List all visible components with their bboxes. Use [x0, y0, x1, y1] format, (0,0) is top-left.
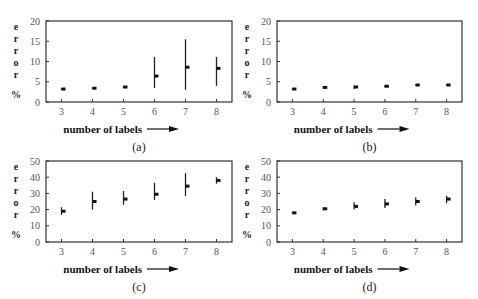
y-axis-label-letter: r: [245, 185, 250, 196]
errorbar-point: [447, 83, 451, 86]
mean-marker: [447, 83, 451, 86]
panel-caption: (a): [132, 140, 145, 154]
arrow-right-icon: [400, 126, 410, 132]
y-tick-label: 30: [30, 188, 40, 199]
mean-marker: [93, 87, 97, 90]
y-axis-label-letter: %: [242, 89, 252, 100]
x-tick-label: 5: [121, 106, 126, 117]
mean-marker: [416, 200, 420, 203]
y-tick-label: 0: [35, 97, 40, 108]
y-tick-label: 15: [261, 36, 271, 47]
mean-marker: [62, 210, 66, 213]
mean-marker: [385, 85, 389, 88]
errorbar-point: [323, 207, 327, 210]
plot-frame: [277, 21, 462, 102]
mean-marker: [124, 86, 128, 89]
y-tick-label: 20: [261, 16, 271, 27]
y-tick-label: 0: [266, 237, 271, 248]
x-axis-label: number of labels: [294, 263, 373, 275]
y-tick-label: 50: [261, 156, 271, 167]
y-axis-label-letter: r: [14, 209, 19, 220]
errorbar-point: [217, 177, 221, 183]
x-tick-label: 6: [382, 246, 387, 257]
chart-panel-a: 05101520345678error%number of labels(a): [11, 16, 232, 155]
x-tick-label: 8: [214, 246, 219, 257]
y-tick-label: 50: [30, 156, 40, 167]
y-tick-label: 10: [261, 220, 271, 231]
errorbar-point: [385, 199, 389, 208]
y-axis-label-letter: r: [14, 69, 19, 80]
mean-marker: [155, 193, 159, 196]
errorbar-point: [217, 57, 221, 86]
errorbar-point: [62, 88, 66, 91]
panel-caption: (d): [363, 280, 377, 294]
x-tick-label: 6: [152, 246, 157, 257]
x-tick-label: 4: [321, 246, 326, 257]
errorbar-point: [124, 191, 128, 205]
y-tick-label: 5: [266, 76, 271, 87]
y-axis-label-letter: o: [14, 57, 19, 68]
plot-frame: [277, 161, 462, 242]
x-tick-label: 3: [59, 106, 64, 117]
x-tick-label: 7: [413, 246, 418, 257]
mean-marker: [186, 185, 190, 188]
y-tick-label: 0: [35, 237, 40, 248]
y-axis-label-letter: r: [245, 209, 250, 220]
y-axis-label-letter: r: [245, 69, 250, 80]
y-tick-label: 10: [261, 56, 271, 67]
errorbar-point: [323, 86, 327, 89]
y-axis-label-letter: r: [245, 173, 250, 184]
y-axis-label-letter: o: [245, 197, 250, 208]
y-tick-label: 30: [261, 188, 271, 199]
y-axis-label-letter: r: [14, 173, 19, 184]
x-tick-label: 7: [183, 106, 188, 117]
arrow-right-icon: [400, 266, 410, 272]
x-tick-label: 4: [90, 246, 95, 257]
plot-frame: [46, 21, 232, 102]
x-tick-label: 5: [121, 246, 126, 257]
y-tick-label: 10: [30, 56, 40, 67]
y-axis-label-letter: o: [14, 197, 19, 208]
x-tick-label: 4: [90, 106, 95, 117]
x-tick-label: 3: [290, 246, 295, 257]
mean-marker: [354, 86, 358, 89]
x-tick-label: 3: [59, 246, 64, 257]
errorbar-point: [93, 192, 97, 210]
y-tick-label: 15: [30, 36, 40, 47]
y-axis-label-letter: r: [14, 185, 19, 196]
y-axis-label-letter: r: [245, 33, 250, 44]
x-tick-label: 5: [352, 246, 357, 257]
x-tick-label: 8: [444, 106, 449, 117]
x-tick-label: 8: [444, 246, 449, 257]
y-axis-label-letter: r: [245, 45, 250, 56]
y-axis-label-letter: %: [11, 89, 21, 100]
errorbar-point: [292, 88, 296, 91]
x-tick-label: 3: [290, 106, 295, 117]
errorbar-point: [186, 173, 190, 196]
arrow-right-icon: [169, 126, 179, 132]
errorbar-point: [186, 39, 190, 90]
y-axis-label-letter: r: [14, 33, 19, 44]
errorbar-point: [416, 83, 420, 86]
y-axis-label-letter: e: [245, 161, 250, 172]
mean-marker: [292, 211, 296, 214]
errorbar-point: [292, 211, 296, 214]
mean-marker: [93, 200, 97, 203]
x-tick-label: 8: [214, 106, 219, 117]
mean-marker: [385, 202, 389, 205]
errorbar-point: [155, 57, 159, 88]
mean-marker: [447, 198, 451, 201]
y-tick-label: 10: [30, 220, 40, 231]
panel-caption: (b): [363, 140, 377, 154]
y-axis-label-letter: e: [14, 161, 19, 172]
errorbar-point: [416, 197, 420, 205]
mean-marker: [323, 207, 327, 210]
x-axis-label: number of labels: [63, 263, 142, 275]
errorbar-point: [155, 183, 159, 200]
mean-marker: [124, 198, 128, 201]
panel-caption: (c): [132, 280, 145, 294]
mean-marker: [186, 66, 190, 69]
y-axis-label-letter: %: [242, 229, 252, 240]
plot-frame: [46, 161, 232, 242]
mean-marker: [217, 67, 221, 70]
